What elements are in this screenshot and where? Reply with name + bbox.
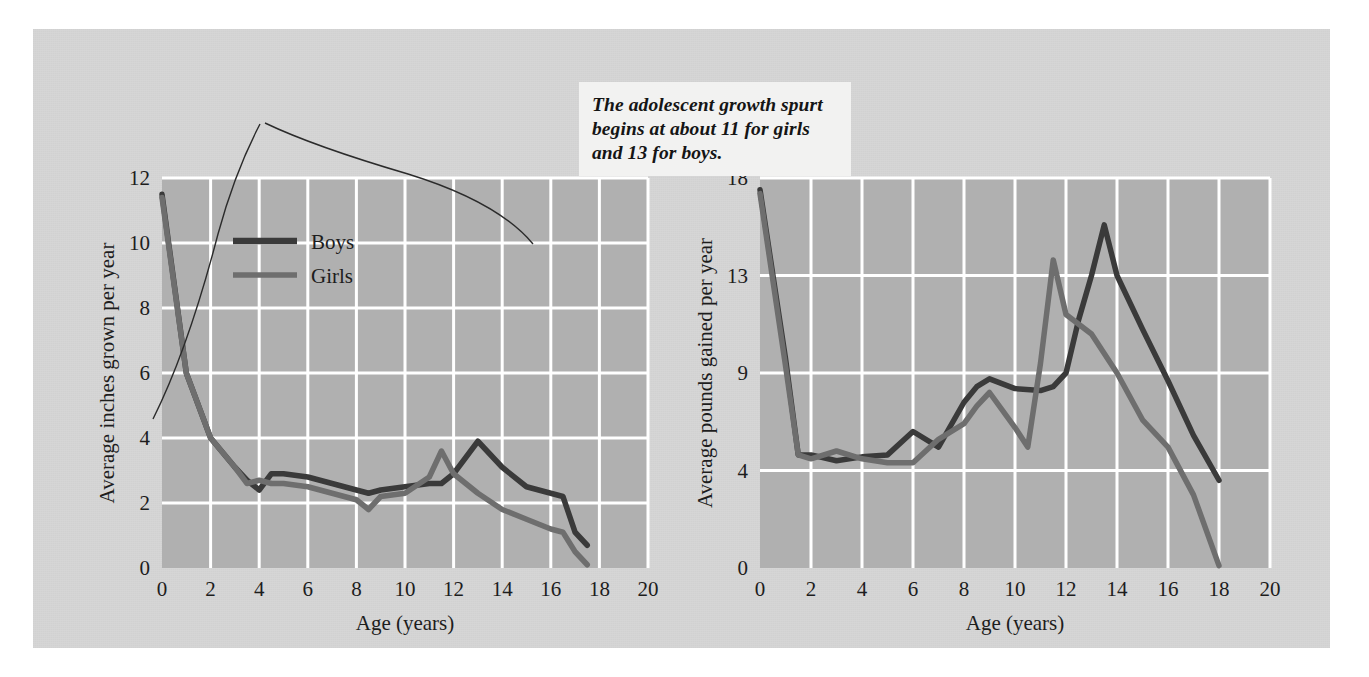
figure-panel: 02468101202468101214161820Age (years)Ave…: [33, 29, 1330, 648]
pointer-line-right: [265, 123, 533, 244]
callout-line-3: and 13 for boys.: [592, 141, 838, 165]
pointer-line-left: [153, 124, 260, 419]
callout-line-1: The adolescent growth spurt: [592, 93, 838, 117]
growth-spurt-callout: The adolescent growth spurt begins at ab…: [579, 82, 851, 176]
callout-line-2: begins at about 11 for girls: [592, 117, 838, 141]
